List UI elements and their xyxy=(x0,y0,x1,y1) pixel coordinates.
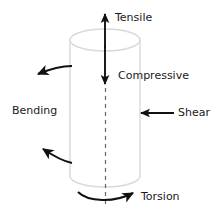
cylinder-loading-diagram: Tensile Compressive Bending Shear Torsio… xyxy=(0,0,215,222)
label-shear: Shear xyxy=(178,106,210,119)
label-bending: Bending xyxy=(12,104,57,117)
label-tensile: Tensile xyxy=(114,11,152,24)
bending-arrow-upper xyxy=(38,66,72,74)
bending-arrow-lower xyxy=(43,149,72,163)
label-compressive: Compressive xyxy=(118,69,189,82)
label-torsion: Torsion xyxy=(140,190,180,203)
diagram-canvas: Tensile Compressive Bending Shear Torsio… xyxy=(0,0,215,222)
